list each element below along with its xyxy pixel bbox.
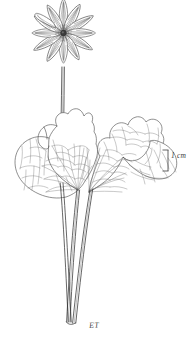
illustration-canvas: .ln { fill:none; stroke:#4a4a4a; stroke-…: [0, 0, 188, 341]
converging-petioles: [60, 183, 93, 324]
scale-bar-label: 1 cm: [171, 152, 186, 160]
flower-head: [32, 0, 96, 63]
artist-signature: ET: [89, 321, 100, 330]
left-basal-leaf: [15, 109, 98, 198]
botanical-illustration-plate: .ln { fill:none; stroke:#4a4a4a; stroke-…: [0, 0, 188, 341]
right-basal-leaf: [87, 117, 177, 192]
